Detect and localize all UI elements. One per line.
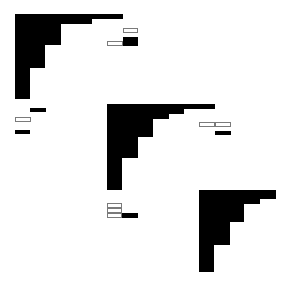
outlined-bar	[15, 117, 31, 122]
staircase-2-step	[107, 119, 153, 137]
staircase-1-step	[15, 24, 61, 45]
outlined-bar	[107, 41, 123, 46]
staircase-2-step	[107, 137, 138, 158]
filled-bar	[15, 130, 30, 134]
staircase-3-step	[199, 190, 276, 199]
staircase-2-step	[107, 158, 122, 190]
staircase-3-step	[199, 245, 214, 272]
staircase-3-step	[199, 222, 230, 245]
filled-bar	[122, 213, 138, 218]
outlined-bar	[215, 122, 231, 127]
filled-bar	[123, 37, 138, 46]
outlined-bar	[107, 213, 122, 218]
staircase-1-step	[15, 68, 30, 99]
staircase-3-step	[199, 204, 244, 222]
outlined-bar	[199, 122, 215, 127]
filled-bar	[215, 131, 231, 135]
outlined-bar	[123, 28, 138, 33]
filled-bar	[30, 108, 46, 112]
staircase-1-step	[15, 45, 45, 68]
